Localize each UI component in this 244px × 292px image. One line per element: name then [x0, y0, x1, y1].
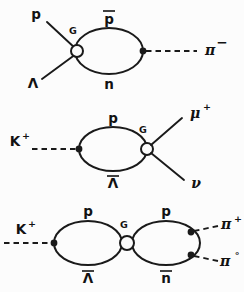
outgoing-pion-zero-dashed-line — [194, 256, 218, 261]
diagram-2: K + p Λ G μ + ν — [10, 101, 211, 191]
label-incoming-lambda: Λ — [28, 75, 39, 91]
label-incoming-proton: p — [31, 6, 41, 22]
label-outgoing-pion-plus-superscript: + — [234, 213, 242, 224]
label-incoming-kaon: K — [16, 221, 27, 237]
label-incoming-kaon: K — [10, 133, 21, 149]
label-loop-left-top-proton: p — [83, 203, 93, 219]
label-outgoing-pion: π — [204, 42, 216, 58]
label-outgoing-pion-zero: π — [219, 253, 231, 269]
diagram-1: p Λ G p n π − — [28, 6, 228, 92]
outgoing-neutrino-line — [151, 153, 184, 180]
label-loop-top-proton: p — [108, 110, 118, 126]
label-vertex-g: G — [139, 124, 147, 135]
label-outgoing-pion-zero-superscript: ° — [235, 250, 240, 261]
outgoing-pion-plus-dashed-line — [194, 226, 218, 231]
label-incoming-kaon-superscript: + — [28, 218, 36, 229]
diagram-canvas: p Λ G p n π − — [0, 0, 244, 292]
label-loop-bottom-neutron: n — [104, 76, 114, 92]
vertex-g-circle — [120, 236, 134, 250]
label-loop-right-top-proton: p — [161, 203, 171, 219]
outgoing-muon-line — [151, 118, 182, 145]
label-outgoing-muon-superscript: + — [203, 101, 211, 112]
label-loop-right-bottom-antineutron: n — [161, 270, 171, 286]
label-loop-left-bottom-antilambda: Λ — [83, 270, 94, 286]
label-vertex-g: G — [69, 25, 77, 36]
vertex-dot-left — [76, 146, 83, 153]
vertex-dot-left — [51, 240, 58, 247]
vertex-dot-pion-zero — [188, 252, 195, 259]
label-outgoing-pion-plus: π — [220, 216, 232, 232]
incoming-lambda-line — [42, 54, 76, 79]
feynman-diagram-figure: p Λ G p n π − — [0, 0, 244, 292]
vertex-g-circle — [71, 45, 83, 57]
label-outgoing-pion-superscript: − — [216, 34, 227, 50]
label-outgoing-neutrino: ν — [191, 175, 201, 191]
loop-ellipse — [75, 28, 143, 74]
loop-left-ellipse — [54, 221, 122, 265]
loop-right-ellipse — [132, 221, 200, 265]
label-vertex-g: G — [120, 219, 128, 230]
label-outgoing-muon: μ — [190, 105, 200, 121]
vertex-dot-right — [140, 48, 147, 55]
label-incoming-kaon-superscript: + — [22, 130, 30, 141]
label-loop-top-antiproton: p — [104, 11, 114, 27]
vertex-dot-pion-plus — [188, 229, 195, 236]
diagram-3: K + p Λ G p n π + π ° — [4, 203, 242, 286]
loop-ellipse — [79, 127, 147, 171]
label-loop-bottom-antilambda: Λ — [108, 175, 119, 191]
